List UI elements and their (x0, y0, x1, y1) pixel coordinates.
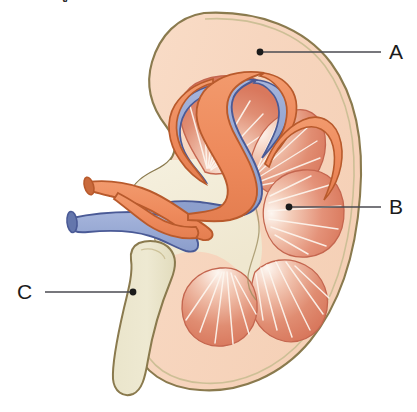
leader-c (45, 289, 136, 296)
kidney-diagram (0, 0, 417, 412)
renal-pyramid-lower-left (182, 268, 257, 346)
figure-canvas: y (0, 0, 417, 412)
renal-vein-lumen (66, 211, 78, 233)
renal-artery-lumen (82, 176, 96, 196)
label-c: C (17, 281, 32, 302)
label-b: B (389, 196, 403, 217)
kidney-body (66, 13, 361, 395)
label-a: A (389, 41, 403, 62)
